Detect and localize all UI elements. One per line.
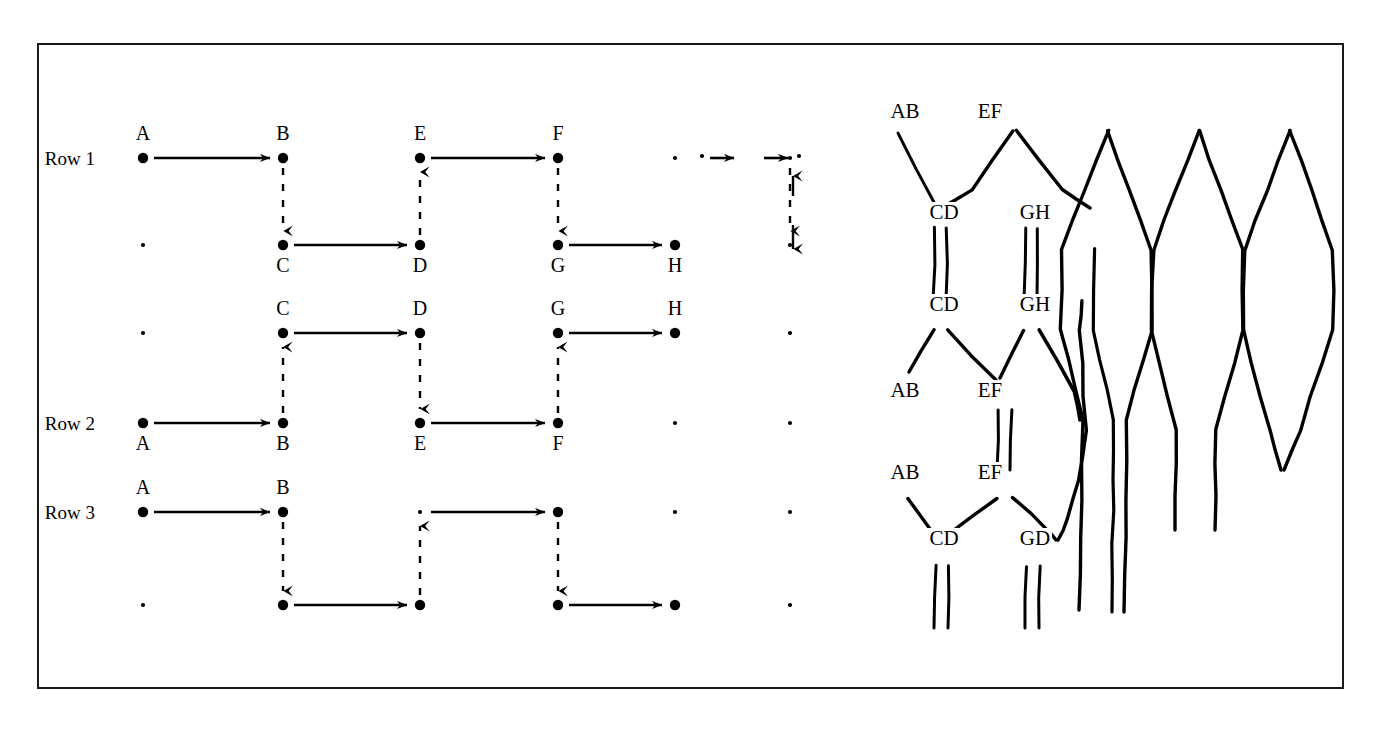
figure-root: Row 1Row 2Row 3ABEFCDGHCDGHABEFAB ABEFCD…: [0, 0, 1381, 735]
figure-border: [37, 43, 1344, 689]
